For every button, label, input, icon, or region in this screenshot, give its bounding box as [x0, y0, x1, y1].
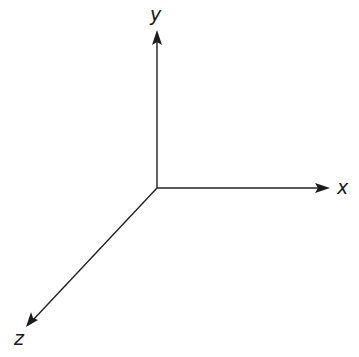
coordinate-axes-diagram: y x z	[0, 0, 359, 357]
z-axis: z	[13, 188, 157, 349]
x-axis-label: x	[336, 176, 349, 198]
z-axis-line	[33, 188, 157, 320]
y-axis-label: y	[149, 3, 162, 25]
z-axis-label: z	[13, 327, 25, 349]
z-axis-arrow-icon	[26, 312, 38, 327]
y-axis: y	[149, 3, 162, 188]
x-axis: x	[157, 176, 349, 198]
